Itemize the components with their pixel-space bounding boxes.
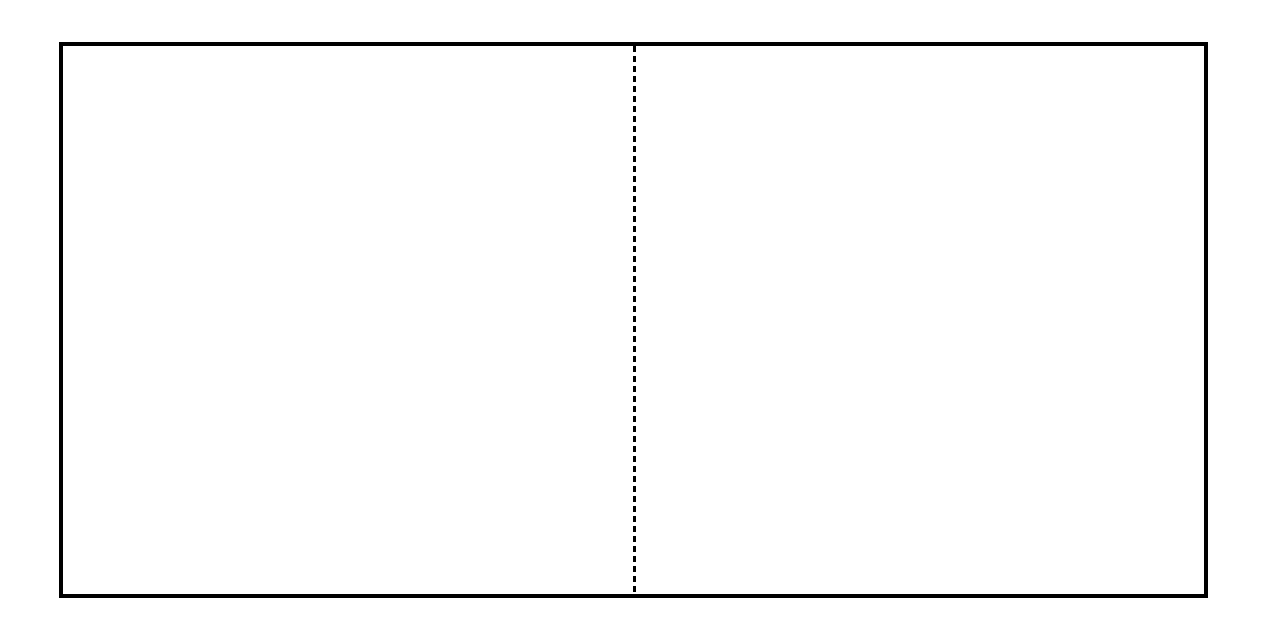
outer-rectangle <box>59 42 1208 598</box>
right-panel <box>636 46 1204 594</box>
left-panel <box>63 46 633 594</box>
